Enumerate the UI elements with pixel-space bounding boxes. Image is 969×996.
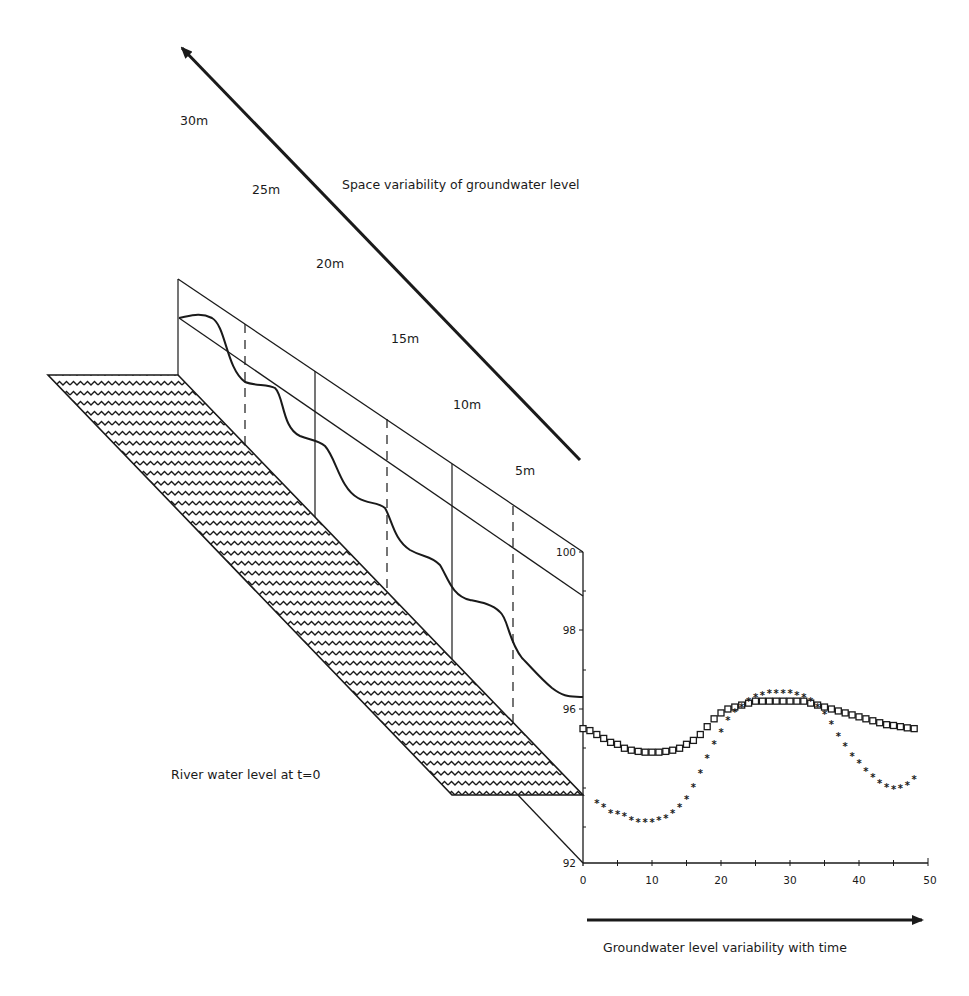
distance-label-10m: 10m (453, 397, 481, 412)
square-marker (780, 698, 786, 704)
star-marker: * (642, 817, 648, 828)
square-marker (766, 698, 772, 704)
square-marker (656, 749, 662, 755)
star-marker: * (691, 782, 697, 793)
distance-label-20m: 20m (316, 256, 344, 271)
star-marker: * (836, 731, 842, 742)
panel-bottom-edge (518, 795, 583, 863)
star-marker: * (780, 688, 786, 699)
distance-label-5m: 5m (515, 463, 535, 478)
star-marker: * (705, 753, 711, 764)
river-level-label: River water level at t=0 (171, 767, 321, 782)
x-tick-30: 30 (783, 874, 796, 886)
y-tick-98: 98 (563, 624, 576, 636)
space-arrow (182, 48, 580, 460)
square-marker (621, 745, 627, 751)
square-marker (773, 698, 779, 704)
square-marker (601, 735, 607, 741)
square-marker (608, 739, 614, 745)
star-marker: * (856, 758, 862, 769)
distance-label-25m: 25m (252, 182, 280, 197)
star-marker: * (732, 707, 738, 718)
x-tick-50: 50 (923, 874, 936, 886)
groundwater-diagram: Space variability of groundwater level 3… (0, 0, 969, 996)
square-marker (718, 710, 724, 716)
square-marker (642, 749, 648, 755)
star-marker: * (594, 798, 600, 809)
space-arrow-label: Space variability of groundwater level (342, 177, 580, 192)
square-marker (615, 741, 621, 747)
time-arrow-label: Groundwater level variability with time (603, 940, 847, 955)
star-marker: * (863, 766, 869, 777)
star-marker: * (898, 783, 904, 794)
star-marker: * (601, 802, 607, 813)
distance-label-15m: 15m (391, 331, 419, 346)
square-marker (587, 728, 593, 734)
star-marker: * (829, 719, 835, 730)
star-marker: * (629, 815, 635, 826)
square-marker (897, 724, 903, 730)
square-marker (635, 748, 641, 754)
square-marker (891, 722, 897, 728)
square-marker (677, 745, 683, 751)
square-marker (904, 725, 910, 731)
distance-label-30m: 30m (180, 113, 208, 128)
square-marker (828, 706, 834, 712)
y-tick-96: 96 (563, 703, 577, 715)
star-marker: * (891, 784, 897, 795)
star-marker: * (711, 739, 717, 750)
star-marker: * (787, 688, 793, 699)
star-marker: * (767, 688, 773, 699)
square-marker (628, 747, 634, 753)
square-marker (787, 698, 793, 704)
square-marker (884, 722, 890, 728)
star-marker: * (746, 696, 752, 707)
star-marker: * (670, 808, 676, 819)
star-marker: * (760, 690, 766, 701)
star-marker: * (677, 802, 683, 813)
y-tick-100: 100 (556, 546, 576, 558)
star-marker: * (663, 813, 669, 824)
star-marker: * (684, 794, 690, 805)
star-marker: * (718, 727, 724, 738)
square-marker (835, 708, 841, 714)
x-tick-20: 20 (714, 874, 727, 886)
square-marker (697, 732, 703, 738)
square-marker (670, 747, 676, 753)
star-marker: * (801, 692, 807, 703)
square-marker (877, 720, 883, 726)
star-marker: * (725, 715, 731, 726)
square-marker (704, 724, 710, 730)
square-marker (594, 732, 600, 738)
square-marker (580, 726, 586, 732)
x-tick-40: 40 (852, 874, 865, 886)
star-marker: * (815, 702, 821, 713)
star-marker: * (698, 768, 704, 779)
x-tick-0: 0 (580, 874, 587, 886)
square-marker (725, 706, 731, 712)
star-marker: * (794, 690, 800, 701)
square-marker (663, 748, 669, 754)
square-marker (849, 712, 855, 718)
star-marker: * (884, 782, 890, 793)
star-marker: * (656, 815, 662, 826)
star-marker: * (739, 702, 745, 713)
square-marker (649, 749, 655, 755)
star-marker: * (608, 808, 614, 819)
y-tick-92: 92 (563, 857, 576, 869)
square-marker (863, 716, 869, 722)
square-marker (690, 737, 696, 743)
star-series: ****************************************… (594, 688, 917, 829)
star-marker: * (615, 809, 621, 820)
star-marker: * (877, 778, 883, 789)
star-marker: * (808, 696, 814, 707)
star-marker: * (912, 774, 918, 785)
star-marker: * (905, 780, 911, 791)
star-marker: * (622, 811, 628, 822)
square-marker (684, 741, 690, 747)
star-marker: * (849, 751, 855, 762)
star-marker: * (774, 688, 780, 699)
square-marker (711, 716, 717, 722)
square-series (580, 698, 917, 755)
star-marker: * (870, 772, 876, 783)
